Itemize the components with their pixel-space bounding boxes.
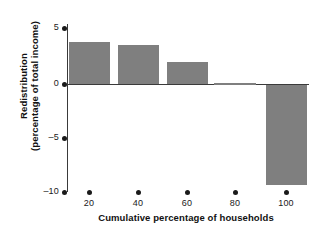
x-tick-label-100: 100 — [269, 198, 303, 208]
x-tick-dot-40 — [136, 190, 141, 195]
x-tick-dot-20 — [87, 190, 92, 195]
x-tick-label-20: 20 — [72, 198, 106, 208]
y-tick-dot-neg5 — [62, 136, 67, 141]
y-tick-dot-neg10 — [62, 190, 67, 195]
bar-100 — [266, 85, 307, 185]
y-axis-title: Redistribution (percentage of total inco… — [18, 6, 40, 166]
x-tick-dot-80 — [233, 190, 238, 195]
x-axis-title: Cumulative percentage of households — [60, 212, 312, 223]
bar-80 — [214, 83, 256, 85]
bar-40 — [118, 45, 159, 84]
x-tick-dot-60 — [185, 190, 190, 195]
x-tick-label-60: 60 — [170, 198, 204, 208]
y-tick-label-neg10: –10 — [33, 186, 59, 196]
plot-area: 5 0 –5 –10 20 40 60 80 100 Cumulative pe… — [0, 0, 317, 242]
y-axis-line — [67, 24, 68, 192]
chart-figure: 5 0 –5 –10 20 40 60 80 100 Cumulative pe… — [0, 0, 317, 242]
y-tick-dot-5 — [62, 26, 67, 31]
bar-20 — [69, 42, 110, 84]
x-tick-label-40: 40 — [121, 198, 155, 208]
y-tick-dot-0 — [62, 82, 67, 87]
y-axis-title-line2: (percentage of total income) — [29, 6, 40, 166]
y-axis-title-line1: Redistribution — [18, 53, 29, 119]
x-tick-dot-100 — [284, 190, 289, 195]
x-tick-label-80: 80 — [218, 198, 252, 208]
bar-60 — [167, 62, 208, 84]
